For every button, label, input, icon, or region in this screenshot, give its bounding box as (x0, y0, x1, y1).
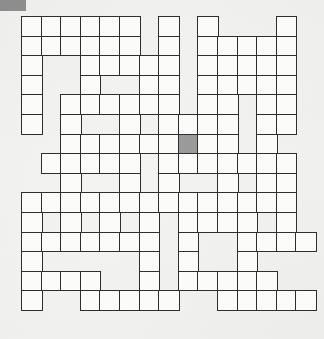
crossword-cell[interactable] (217, 134, 239, 155)
crossword-cell[interactable] (178, 251, 200, 272)
crossword-cell[interactable] (60, 134, 82, 155)
crossword-cell[interactable] (237, 75, 259, 96)
crossword-cell[interactable] (237, 36, 259, 57)
crossword-cell[interactable] (237, 192, 259, 213)
crossword-cell[interactable] (139, 94, 161, 115)
crossword-cell[interactable] (276, 16, 298, 37)
crossword-cell[interactable] (80, 232, 102, 253)
crossword-cell[interactable] (80, 290, 102, 311)
crossword-cell[interactable] (158, 94, 180, 115)
crossword-cell[interactable] (276, 212, 298, 233)
crossword-cell[interactable] (217, 153, 239, 174)
crossword-cell[interactable] (197, 134, 219, 155)
crossword-cell[interactable] (217, 94, 239, 115)
crossword-cell[interactable] (237, 271, 259, 292)
crossword-cell[interactable] (276, 192, 298, 213)
crossword-cell[interactable] (158, 290, 180, 311)
crossword-cell[interactable] (197, 36, 219, 57)
crossword-cell[interactable] (139, 251, 161, 272)
crossword-cell[interactable] (80, 16, 102, 37)
crossword-cell[interactable] (60, 232, 82, 253)
crossword-cell[interactable] (119, 290, 141, 311)
crossword-cell[interactable] (217, 271, 239, 292)
crossword-cell[interactable] (119, 36, 141, 57)
crossword-cell[interactable] (158, 192, 180, 213)
crossword-cell-shaded[interactable] (178, 134, 200, 155)
crossword-cell[interactable] (60, 36, 82, 57)
crossword-cell[interactable] (21, 55, 43, 76)
crossword-cell[interactable] (256, 36, 278, 57)
crossword-cell[interactable] (80, 94, 102, 115)
crossword-cell[interactable] (256, 75, 278, 96)
crossword-cell[interactable] (41, 192, 63, 213)
crossword-cell[interactable] (119, 153, 141, 174)
crossword-cell[interactable] (158, 153, 180, 174)
crossword-cell[interactable] (21, 271, 43, 292)
crossword-cell[interactable] (119, 192, 141, 213)
crossword-cell[interactable] (99, 134, 121, 155)
crossword-cell[interactable] (139, 232, 161, 253)
crossword-cell[interactable] (119, 114, 141, 135)
crossword-cell[interactable] (60, 114, 82, 135)
crossword-cell[interactable] (256, 94, 278, 115)
crossword-cell[interactable] (256, 173, 278, 194)
crossword-cell[interactable] (276, 94, 298, 115)
crossword-cell[interactable] (197, 114, 219, 135)
crossword-cell[interactable] (237, 212, 259, 233)
crossword-cell[interactable] (276, 36, 298, 57)
crossword-cell[interactable] (99, 16, 121, 37)
crossword-cell[interactable] (99, 153, 121, 174)
crossword-cell[interactable] (217, 36, 239, 57)
crossword-grid-container[interactable] (21, 16, 315, 310)
crossword-cell[interactable] (276, 232, 298, 253)
crossword-cell[interactable] (41, 153, 63, 174)
crossword-cell[interactable] (237, 55, 259, 76)
crossword-cell[interactable] (217, 114, 239, 135)
crossword-cell[interactable] (60, 212, 82, 233)
crossword-cell[interactable] (21, 192, 43, 213)
crossword-cell[interactable] (217, 75, 239, 96)
crossword-grid[interactable] (21, 16, 315, 310)
crossword-cell[interactable] (139, 290, 161, 311)
crossword-cell[interactable] (60, 271, 82, 292)
crossword-cell[interactable] (60, 153, 82, 174)
crossword-cell[interactable] (41, 232, 63, 253)
crossword-cell[interactable] (276, 114, 298, 135)
crossword-cell[interactable] (21, 212, 43, 233)
crossword-cell[interactable] (197, 16, 219, 37)
crossword-cell[interactable] (21, 16, 43, 37)
crossword-cell[interactable] (178, 271, 200, 292)
crossword-cell[interactable] (256, 232, 278, 253)
crossword-cell[interactable] (197, 75, 219, 96)
crossword-cell[interactable] (158, 173, 180, 194)
crossword-cell[interactable] (256, 114, 278, 135)
crossword-cell[interactable] (217, 173, 239, 194)
crossword-cell[interactable] (256, 271, 278, 292)
crossword-cell[interactable] (119, 134, 141, 155)
crossword-cell[interactable] (276, 290, 298, 311)
crossword-cell[interactable] (197, 94, 219, 115)
crossword-cell[interactable] (139, 134, 161, 155)
crossword-cell[interactable] (60, 16, 82, 37)
crossword-cell[interactable] (217, 290, 239, 311)
crossword-cell[interactable] (21, 232, 43, 253)
crossword-cell[interactable] (21, 75, 43, 96)
crossword-cell[interactable] (80, 192, 102, 213)
crossword-cell[interactable] (99, 232, 121, 253)
crossword-cell[interactable] (60, 94, 82, 115)
crossword-cell[interactable] (139, 212, 161, 233)
crossword-cell[interactable] (158, 75, 180, 96)
crossword-cell[interactable] (99, 290, 121, 311)
crossword-cell[interactable] (276, 75, 298, 96)
crossword-cell[interactable] (80, 153, 102, 174)
crossword-cell[interactable] (21, 251, 43, 272)
crossword-cell[interactable] (21, 114, 43, 135)
crossword-cell[interactable] (158, 114, 180, 135)
crossword-cell[interactable] (139, 75, 161, 96)
crossword-cell[interactable] (119, 16, 141, 37)
crossword-cell[interactable] (295, 232, 317, 253)
crossword-cell[interactable] (197, 55, 219, 76)
crossword-cell[interactable] (276, 173, 298, 194)
crossword-cell[interactable] (217, 192, 239, 213)
crossword-cell[interactable] (237, 153, 259, 174)
